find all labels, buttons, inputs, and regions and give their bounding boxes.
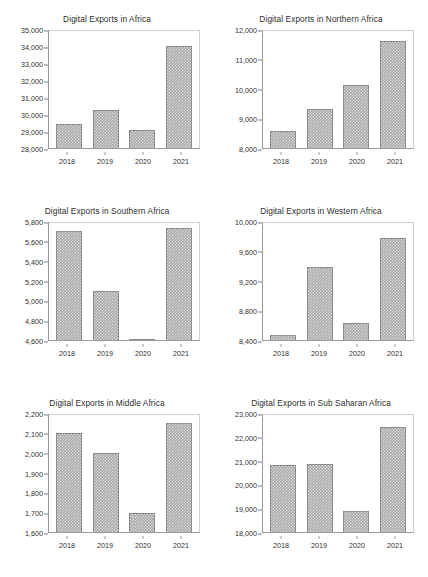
bar[interactable] (93, 110, 119, 148)
plot-area (48, 30, 200, 149)
chart-panel: Digital Exports in Western Africa10,0009… (214, 192, 428, 384)
plot-area (48, 414, 200, 533)
y-axis-tick-label: 9,000 (239, 115, 262, 124)
x-axis: 2018201920202021 (262, 152, 414, 168)
y-axis-tick-label: 5,800 (25, 218, 48, 227)
bar[interactable] (270, 335, 296, 340)
y-axis-tick-label: 32,000 (21, 77, 48, 86)
bar[interactable] (307, 109, 333, 148)
y-axis-tick-label: 4,600 (25, 337, 48, 346)
chart-panel: Digital Exports in Northern Africa12,000… (214, 0, 428, 192)
y-axis: 5,8005,6005,4005,2005,0004,8004,600 (0, 222, 48, 341)
chart-panel: Digital Exports in Southern Africa5,8005… (0, 192, 214, 384)
bar-series (49, 415, 199, 532)
x-axis-tick-label: 2018 (54, 344, 80, 358)
y-axis-tick-label: 11,000 (236, 55, 262, 64)
x-axis-tick-label: 2020 (344, 536, 370, 550)
bar[interactable] (343, 511, 369, 532)
bar-series (263, 31, 413, 148)
x-axis-tick-label: 2019 (306, 344, 332, 358)
y-axis: 12,00011,00010,0009,0008,000 (214, 30, 262, 149)
x-axis-tick-label: 2018 (268, 344, 294, 358)
x-axis-tick-label: 2019 (306, 536, 332, 550)
y-axis-tick-label: 8,800 (239, 307, 262, 316)
y-axis-tick-label: 4,800 (25, 317, 48, 326)
bar[interactable] (166, 423, 192, 532)
chart-title: Digital Exports in Western Africa (214, 206, 428, 216)
y-axis-tick-label: 10,000 (235, 85, 262, 94)
bar[interactable] (380, 41, 406, 148)
x-axis-tick-label: 2018 (54, 536, 80, 550)
y-axis-tick-label: 21,000 (235, 457, 262, 466)
bar[interactable] (56, 231, 82, 340)
bar-series (49, 31, 199, 148)
bar[interactable] (129, 130, 155, 148)
y-axis-tick-label: 5,000 (25, 297, 48, 306)
bar[interactable] (129, 339, 155, 341)
y-axis-tick-label: 28,000 (21, 145, 48, 154)
y-axis-tick-label: 33,000 (21, 60, 48, 69)
x-axis-tick-label: 2019 (92, 344, 118, 358)
bar[interactable] (380, 427, 406, 532)
x-axis: 2018201920202021 (48, 152, 200, 168)
plot-area (262, 414, 414, 533)
y-axis: 35,00034,00033,00032,00031,00030,00029,0… (0, 30, 48, 149)
y-axis-tick-label: 29,000 (21, 128, 48, 137)
bar[interactable] (56, 124, 82, 148)
y-axis-tick-label: 1,600 (25, 529, 48, 538)
x-axis-tick-label: 2021 (168, 344, 194, 358)
x-axis-tick-label: 2021 (382, 152, 408, 166)
chart-title: Digital Exports in Africa (0, 14, 214, 24)
bar[interactable] (270, 131, 296, 148)
bar[interactable] (343, 323, 369, 340)
y-axis-tick-label: 2,200 (25, 410, 48, 419)
bar[interactable] (166, 228, 192, 340)
bar[interactable] (307, 464, 333, 532)
bar[interactable] (343, 85, 369, 148)
x-axis-tick-label: 2020 (130, 344, 156, 358)
y-axis-tick-label: 12,000 (235, 26, 262, 35)
bar[interactable] (56, 433, 82, 532)
x-axis-tick-label: 2021 (382, 344, 408, 358)
x-axis: 2018201920202021 (262, 344, 414, 360)
y-axis-tick-label: 18,000 (235, 529, 262, 538)
y-axis-tick-label: 1,700 (25, 509, 48, 518)
bar[interactable] (270, 465, 296, 532)
bar[interactable] (93, 453, 119, 532)
y-axis-tick-label: 5,600 (25, 237, 48, 246)
bar[interactable] (166, 46, 192, 148)
chart-grid: Digital Exports in Africa35,00034,00033,… (0, 0, 428, 577)
y-axis-tick-label: 2,000 (25, 449, 48, 458)
x-axis-tick-label: 2021 (168, 536, 194, 550)
y-axis-tick-label: 34,000 (21, 43, 48, 52)
y-axis-tick-label: 8,000 (239, 145, 262, 154)
bar-series (49, 223, 199, 340)
x-axis-tick-label: 2020 (344, 152, 370, 166)
bar[interactable] (307, 267, 333, 340)
chart-title: Digital Exports in Northern Africa (214, 14, 428, 24)
x-axis-tick-label: 2019 (306, 152, 332, 166)
chart-panel: Digital Exports in Sub Saharan Africa23,… (214, 384, 428, 577)
bar[interactable] (129, 513, 155, 532)
chart-panel: Digital Exports in Africa35,00034,00033,… (0, 0, 214, 192)
x-axis-tick-label: 2020 (130, 152, 156, 166)
y-axis-tick-label: 30,000 (21, 111, 48, 120)
plot-area (262, 222, 414, 341)
chart-panel: Digital Exports in Middle Africa2,2002,1… (0, 384, 214, 577)
bar[interactable] (93, 291, 119, 340)
x-axis: 2018201920202021 (48, 536, 200, 552)
chart-title: Digital Exports in Southern Africa (0, 206, 214, 216)
x-axis-tick-label: 2018 (268, 152, 294, 166)
y-axis-tick-label: 9,600 (239, 247, 262, 256)
bar[interactable] (380, 238, 406, 340)
x-axis-tick-label: 2019 (92, 536, 118, 550)
y-axis-tick-label: 10,000 (235, 218, 262, 227)
x-axis-tick-label: 2018 (54, 152, 80, 166)
y-axis: 2,2002,1002,0001,9001,8001,7001,600 (0, 414, 48, 533)
chart-title: Digital Exports in Sub Saharan Africa (214, 398, 428, 408)
x-axis-tick-label: 2020 (344, 344, 370, 358)
x-axis-tick-label: 2018 (268, 536, 294, 550)
y-axis-tick-label: 19,000 (235, 505, 262, 514)
y-axis: 23,00022,00021,00020,00019,00018,000 (214, 414, 262, 533)
bar-series (263, 223, 413, 340)
